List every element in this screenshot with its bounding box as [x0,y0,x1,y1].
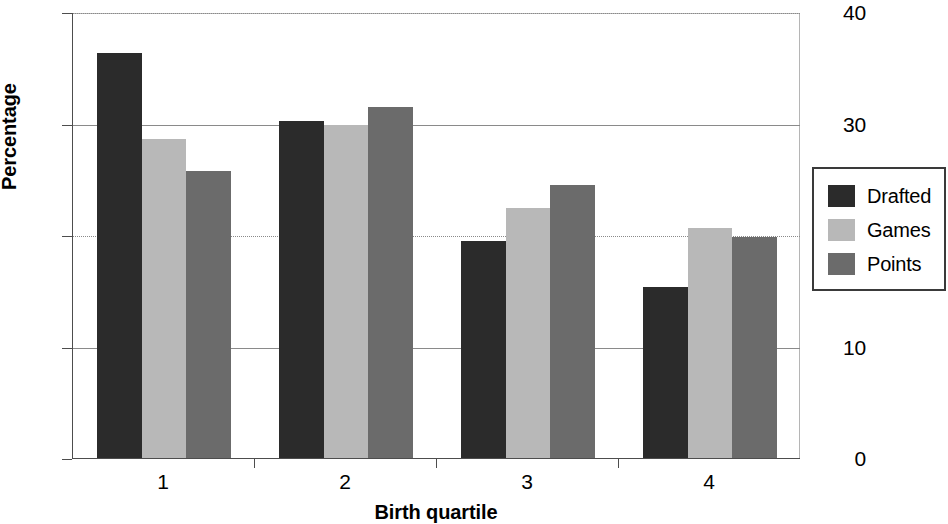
legend-label-points: Points [867,254,921,274]
plot-area [72,13,800,459]
x-tick-label-2: 2 [315,471,375,493]
y-axis-title: Percentage [0,10,21,190]
x-tick-label-3: 3 [497,471,557,493]
bar-drafted-q2 [279,121,324,458]
y-tick-mark [62,125,72,126]
x-axis-title: Birth quartile [72,501,800,524]
gridline-40 [73,13,800,14]
y-tick-label: 40 [843,2,866,23]
y-tick-mark [62,236,72,237]
bar-drafted-q3 [461,241,506,458]
bar-chart-figure: Percentage 010203040 1234 Birth quartile… [0,0,948,524]
legend-item[interactable]: Points [828,247,944,281]
bar-drafted-q1 [97,53,142,458]
x-tick-mark [436,459,437,468]
legend-swatch-drafted [828,185,855,207]
y-tick-mark [62,13,72,14]
bar-games-q3 [506,208,551,458]
bar-games-q2 [324,125,369,458]
legend-label-games: Games [867,220,930,240]
legend-swatch-points [828,253,855,275]
y-tick-mark [62,459,72,460]
y-tick-mark [62,348,72,349]
gridline-30 [73,125,800,126]
legend-item[interactable]: Games [828,213,944,247]
bar-drafted-q4 [643,287,688,458]
y-tick-label: 10 [843,337,866,358]
bar-points-q2 [368,107,413,458]
x-tick-label-4: 4 [679,471,739,493]
bar-points-q4 [732,237,777,458]
x-tick-mark [254,459,255,468]
bar-points-q3 [550,185,595,458]
bar-games-q4 [688,228,733,458]
y-tick-label: 0 [855,448,866,469]
legend-swatch-games [828,219,855,241]
legend-item[interactable]: Drafted [828,179,944,213]
bar-games-q1 [142,139,187,458]
x-tick-label-1: 1 [133,471,193,493]
bar-points-q1 [186,171,231,458]
legend: Drafted Games Points [812,167,946,291]
legend-label-drafted: Drafted [867,186,931,206]
x-tick-mark [618,459,619,468]
y-tick-label: 30 [843,114,866,135]
